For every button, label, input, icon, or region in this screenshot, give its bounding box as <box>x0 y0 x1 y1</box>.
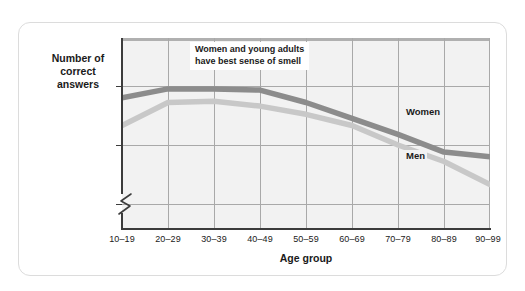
x-tick-label-6: 70–79 <box>374 234 422 244</box>
y-tick-mark-4 <box>116 86 122 87</box>
y-axis-line <box>121 38 123 194</box>
x-tick-label-7: 80–89 <box>420 234 468 244</box>
x-tick-label-4: 50–59 <box>282 234 330 244</box>
series-label-women: Women <box>404 106 442 117</box>
x-tick-label-8: 90–99 <box>464 234 512 244</box>
x-axis-line <box>121 228 491 230</box>
x-tick-label-3: 40–49 <box>236 234 284 244</box>
series-label-men: Men <box>404 150 427 161</box>
x-axis-title: Age group <box>122 252 490 264</box>
chart-annotation: Women and young adults have best sense o… <box>190 42 309 70</box>
x-tick-label-2: 30–39 <box>190 234 238 244</box>
women-line <box>122 89 490 157</box>
y-tick-mark-2 <box>116 204 122 205</box>
x-tick-label-0: 10–19 <box>98 234 146 244</box>
x-tick-label-1: 20–29 <box>144 234 192 244</box>
chart-screenshot: Number of correct answers <box>0 0 525 291</box>
y-tick-mark-3 <box>116 145 122 146</box>
y-axis-title: Number of correct answers <box>38 52 118 91</box>
line-chart: Number of correct answers <box>0 0 525 291</box>
x-tick-label-5: 60–69 <box>328 234 376 244</box>
